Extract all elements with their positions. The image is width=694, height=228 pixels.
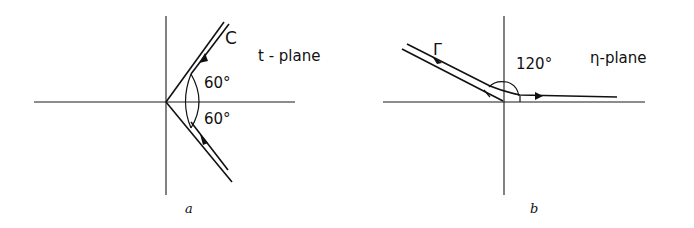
plane-label-b: η-plane — [590, 51, 647, 66]
arrow-right-b — [535, 92, 543, 100]
arrow-lower-a — [200, 134, 208, 145]
plane-label-a: t - plane — [258, 49, 320, 64]
diagram-canvas — [0, 0, 694, 228]
ray-b — [402, 49, 503, 101]
contour-upper-a — [191, 24, 229, 74]
contour-lower-a — [191, 122, 228, 170]
angle-arc-a-right — [191, 74, 199, 128]
angle-label-lower-a: 60° — [204, 112, 231, 127]
contour-label-a: C — [225, 30, 237, 47]
panel-b — [383, 16, 645, 195]
figure: C t - plane 60° 60° a Γ 120° η-plane b — [0, 0, 694, 228]
caption-a: a — [185, 202, 193, 215]
caption-b: b — [530, 202, 538, 215]
panel-a — [34, 16, 295, 195]
angle-arc-a-left — [186, 74, 192, 128]
angle-label-b: 120° — [516, 57, 552, 72]
angle-label-upper-a: 60° — [204, 76, 231, 91]
contour-label-b: Γ — [433, 42, 442, 58]
